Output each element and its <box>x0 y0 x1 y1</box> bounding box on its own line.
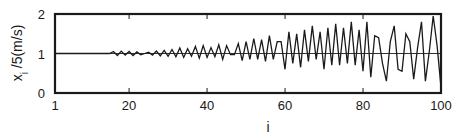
x-tick-label: 1 <box>51 98 58 113</box>
y-label-rest: /5(m/s) <box>9 25 25 72</box>
y-tick-label: 1 <box>38 47 45 62</box>
y-axis-label: xi /5(m/s) <box>9 25 30 82</box>
y-tick-label: 0 <box>38 86 45 101</box>
x-tick-label: 60 <box>278 98 292 113</box>
chart: xi /5(m/s) 012 120406080100 i <box>0 0 465 136</box>
x-axis-label: i <box>266 119 269 135</box>
y-tick-labels: 012 <box>38 7 45 101</box>
x-tick-label: 20 <box>122 98 136 113</box>
x-tick-label: 40 <box>200 98 214 113</box>
y-tick-label: 2 <box>38 7 45 22</box>
x-tick-label: 80 <box>356 98 370 113</box>
x-tick-labels: 120406080100 <box>51 14 451 113</box>
series-line <box>55 16 441 87</box>
svg-text:xi /5(m/s): xi /5(m/s) <box>9 25 30 82</box>
x-tick-label: 100 <box>430 98 452 113</box>
y-label-main: x <box>9 74 25 81</box>
